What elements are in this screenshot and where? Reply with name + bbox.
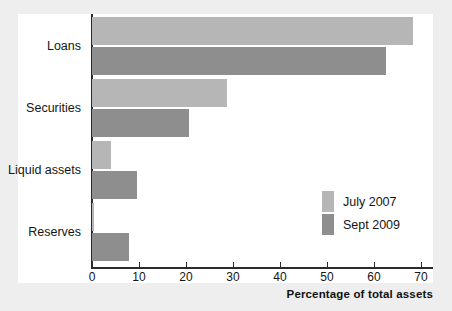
legend-swatch-icon-sept-2009 [322,214,334,235]
category-label-reserves: Reserves [28,225,81,239]
category-label-securities: Securities [26,101,81,115]
x-tick-60 [374,262,375,269]
x-tick-50 [327,262,328,269]
x-tick-40 [280,262,281,269]
x-axis-line [91,267,433,269]
legend-item-july-2007: July 2007 [322,190,400,213]
bar-reserves-july-2007 [92,203,94,231]
x-tick-label-70: 70 [414,270,427,284]
x-tick-10 [139,262,140,269]
bar-securities-july-2007 [92,79,227,107]
legend-label-sept-2009: Sept 2009 [343,218,400,232]
x-tick-label-30: 30 [226,270,239,284]
x-axis-title: Percentage of total assets [0,288,433,300]
bar-securities-sept-2009 [92,109,189,137]
x-tick-0 [92,262,93,269]
x-tick-label-20: 20 [179,270,192,284]
x-tick-label-0: 0 [89,270,96,284]
legend-item-sept-2009: Sept 2009 [322,213,400,236]
bar-loans-july-2007 [92,17,413,45]
x-tick-30 [233,262,234,269]
bar-liquid-assets-sept-2009 [92,171,137,199]
x-tick-20 [186,262,187,269]
x-tick-label-60: 60 [367,270,380,284]
category-label-liquid-assets: Liquid assets [8,163,81,177]
legend-swatch-icon-july-2007 [322,191,334,212]
bar-chart-figure: LoansSecuritiesLiquid assetsReserves 010… [0,0,452,311]
x-tick-label-50: 50 [320,270,333,284]
bar-liquid-assets-july-2007 [92,141,111,169]
chart-legend: July 2007 Sept 2009 [322,190,400,236]
x-tick-label-40: 40 [273,270,286,284]
bar-loans-sept-2009 [92,47,386,75]
x-tick-70 [421,262,422,269]
x-tick-label-10: 10 [132,270,145,284]
bar-reserves-sept-2009 [92,233,129,261]
category-label-loans: Loans [47,39,81,53]
legend-label-july-2007: July 2007 [343,195,397,209]
